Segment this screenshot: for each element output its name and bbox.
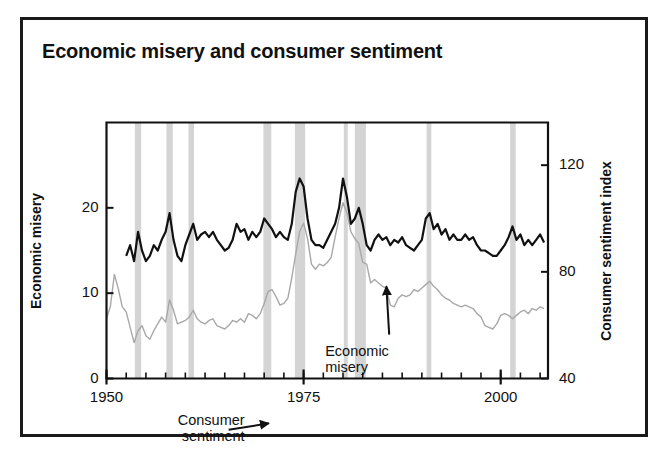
x-axis-tick-label: 1975 <box>274 388 334 405</box>
y-axis-right-tick-label: 40 <box>559 369 599 386</box>
recession-bands-group <box>135 123 516 379</box>
y-axis-right-tick-label: 120 <box>559 155 599 172</box>
x-axis-tick-label: 1950 <box>77 388 137 405</box>
x-axis-tick-label: 2000 <box>471 388 531 405</box>
y-axis-left-tick-label: 20 <box>59 198 99 215</box>
y-axis-left-tick-label: 10 <box>59 283 99 300</box>
recession-band <box>510 123 516 379</box>
recession-band <box>188 123 194 379</box>
recession-band <box>263 123 271 379</box>
recession-band <box>344 123 348 379</box>
y-axis-left-tick-label: 0 <box>59 369 99 386</box>
recession-band <box>166 123 172 379</box>
y-axis-right-tick-label: 80 <box>559 262 599 279</box>
chart-figure: Economic misery and consumer sentiment E… <box>0 0 662 455</box>
arrow-to-economic-misery <box>386 286 389 334</box>
recession-band <box>427 123 432 379</box>
annotation-economic-misery: Economic misery <box>325 343 389 375</box>
annotation-consumer-sentiment: Consumer sentiment <box>178 412 245 444</box>
